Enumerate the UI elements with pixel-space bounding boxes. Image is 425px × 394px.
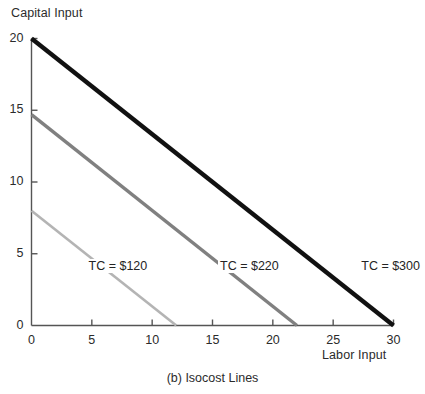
y-tick-label: 5: [0, 246, 24, 260]
series-group: [32, 39, 394, 326]
x-tick-label: 5: [80, 333, 104, 347]
isocost-label-3: TC = $300: [359, 259, 422, 273]
x-tick-label: 0: [20, 333, 44, 347]
x-tick-label: 10: [140, 333, 164, 347]
figure-caption: (b) Isocost Lines: [0, 371, 425, 385]
y-tick-label: 20: [0, 31, 24, 45]
y-tick-label: 10: [0, 174, 24, 188]
x-tick-label: 20: [261, 333, 285, 347]
isocost-line-3: [32, 39, 394, 326]
x-tick-label: 25: [321, 333, 345, 347]
isocost-label-1: TC = $120: [87, 259, 150, 273]
x-tick-label: 30: [382, 333, 406, 347]
isocost-label-2: TC = $220: [218, 259, 281, 273]
y-tick-label: 0: [0, 318, 24, 332]
isocost-lines-figure: Capital Input Labor Input 05101520 05101…: [0, 0, 425, 394]
y-tick-label: 15: [0, 102, 24, 116]
x-tick-label: 15: [201, 333, 225, 347]
